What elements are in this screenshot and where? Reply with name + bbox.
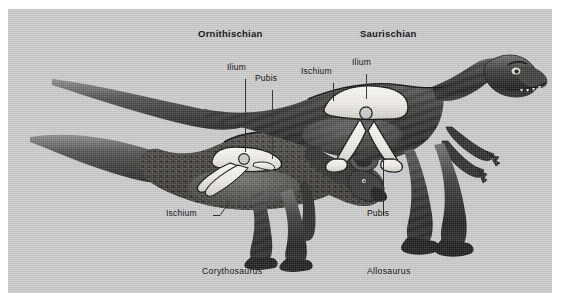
callout-ornithischian-pubis: Pubis xyxy=(255,73,277,83)
callout-ornithischian-ischium: Ischium xyxy=(166,208,197,218)
callout-saurischian-ischium: Ischium xyxy=(301,66,332,76)
illustration-plate: Ornithischian Saurischian Ilium Pubis Is… xyxy=(8,9,552,293)
caption-corythosaurus: Corythosaurus xyxy=(202,266,262,276)
header-saurischian: Saurischian xyxy=(360,28,417,39)
header-ornithischian: Ornithischian xyxy=(198,28,262,39)
callout-saurischian-pubis: Pubis xyxy=(367,208,389,218)
callout-saurischian-ilium: Ilium xyxy=(352,57,371,67)
dinosaur-illustration xyxy=(8,9,552,293)
callout-ornithischian-ilium: Ilium xyxy=(227,62,246,72)
caption-allosaurus: Allosaurus xyxy=(367,266,411,276)
dinosaur-hip-comparison-figure: Ornithischian Saurischian Ilium Pubis Is… xyxy=(0,0,563,308)
